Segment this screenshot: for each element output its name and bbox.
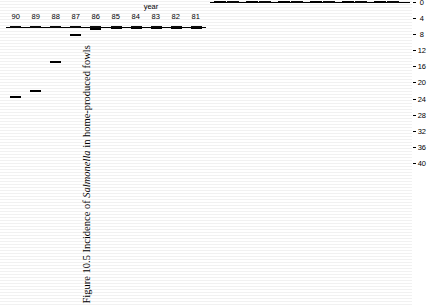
bar-batches	[291, 1, 303, 3]
bar-samples	[374, 1, 386, 3]
value-tick-label: 40	[410, 160, 431, 168]
value-tick-label: 12	[410, 48, 431, 56]
category-axis-title: year	[143, 3, 158, 11]
value-tick-label: 4	[410, 15, 431, 23]
chart-incidents-by-year: 7778798081828384858687888990020040060080…	[0, 0, 206, 305]
category-tick-label: 85	[109, 13, 123, 21]
bar-segment-s-enteritidis	[131, 26, 142, 28]
caption-prefix: Figure 10.5 Incidence of	[81, 198, 92, 304]
value-tick-label: 8	[410, 31, 431, 39]
caption-italic-salmonella: Salmonella	[81, 150, 92, 197]
category-tick-label: 82	[169, 13, 183, 21]
caption-suffix: in home-produced fowls	[81, 45, 92, 150]
category-tick-label: 88	[48, 13, 62, 21]
bar-samples	[278, 1, 290, 3]
bar-segment-s-enteritidis	[171, 26, 182, 28]
bar-segment-other-serotypes	[90, 28, 101, 30]
bar-segment-s-enteritidis	[191, 26, 202, 28]
bar-batches	[387, 1, 399, 3]
value-tick-label: 36	[410, 144, 431, 152]
bar-segment-other-serotypes	[50, 61, 61, 63]
bar-batches	[355, 1, 367, 3]
chart-plot-area-contaminated: 0481216202428323640% contaminatedbatches…	[206, 0, 412, 206]
figure-caption: Figure 10.5 Incidence of Salmonella in h…	[81, 4, 92, 304]
bar-segment-s-enteritidis	[111, 26, 122, 28]
bar-segment-s-enteritidis	[50, 26, 61, 28]
value-tick-label: 28	[410, 112, 431, 120]
bar-segment-s-enteritidis	[151, 26, 162, 28]
category-tick-label: 84	[129, 13, 143, 21]
bar-segment-s-enteritidis	[90, 26, 101, 28]
chart-percent-contaminated: 0481216202428323640% contaminatedbatches…	[206, 0, 412, 305]
category-tick-label: 83	[149, 13, 163, 21]
category-tick-label: 90	[8, 13, 22, 21]
bar-segment-other-serotypes	[10, 96, 21, 98]
value-tick-label: 20	[410, 80, 431, 88]
bar-segment-s-enteritidis	[10, 26, 21, 28]
category-tick-label: 81	[189, 13, 203, 21]
value-tick-label: 32	[410, 128, 431, 136]
bar-batches	[323, 1, 335, 3]
value-tick-label: 16	[410, 64, 431, 72]
category-tick-label: 89	[28, 13, 42, 21]
chart-plot-area-incidents: 7778798081828384858687888990020040060080…	[0, 0, 206, 206]
value-tick-label: 0	[410, 0, 431, 7]
bar-batches	[259, 1, 271, 3]
bar-batches	[227, 1, 239, 3]
bar-samples	[214, 1, 226, 3]
bar-segment-other-serotypes	[30, 90, 41, 92]
value-tick-label: 24	[410, 96, 431, 104]
bar-samples	[246, 1, 258, 3]
bar-samples	[342, 1, 354, 3]
bar-samples	[310, 1, 322, 3]
bar-segment-s-enteritidis	[30, 26, 41, 28]
